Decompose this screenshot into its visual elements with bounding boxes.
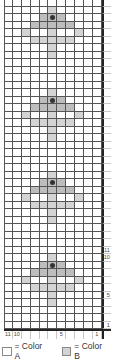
chart-row (4, 224, 111, 232)
chart-cell (4, 239, 13, 247)
chart-cell (93, 292, 102, 300)
row-number (102, 14, 111, 22)
chart-cell (40, 82, 49, 90)
chart-cell (4, 322, 13, 330)
chart-cell (84, 172, 93, 180)
chart-cell (66, 127, 75, 135)
legend-item-color-a: = Color A (2, 341, 48, 361)
chart-cell (75, 104, 84, 112)
chart-cell (84, 254, 93, 262)
chart-cell (13, 239, 22, 247)
chart-cell (93, 299, 102, 307)
chart-cell (13, 97, 22, 105)
chart-row (4, 284, 111, 292)
row-number (102, 164, 111, 172)
chart-cell (93, 97, 102, 105)
chart-cell (66, 67, 75, 75)
chart-cell (22, 74, 31, 82)
chart-cell (4, 149, 13, 157)
chart-cell (40, 179, 49, 187)
chart-cell (57, 142, 66, 150)
row-number (102, 194, 111, 202)
chart-cell (93, 217, 102, 225)
chart-cell (57, 277, 66, 285)
chart-cell (48, 37, 57, 45)
color-b-swatch (62, 347, 72, 356)
chart-cell (57, 269, 66, 277)
chart-cell (75, 247, 84, 255)
chart-cell (31, 232, 40, 240)
chart-cell (48, 292, 57, 300)
chart-cell (57, 22, 66, 30)
chart-cell (22, 82, 31, 90)
chart-cell (4, 142, 13, 150)
chart-cell (48, 314, 57, 322)
chart-cell (75, 254, 84, 262)
chart-cell (48, 22, 57, 30)
chart-cell (13, 322, 22, 330)
chart-cell (13, 14, 22, 22)
chart-row (4, 127, 111, 135)
chart-cell (31, 112, 40, 120)
chart-cell (40, 269, 49, 277)
chart-cell (57, 14, 66, 22)
chart-cell (4, 307, 13, 315)
column-number: 5 (57, 331, 66, 339)
chart-cell (66, 7, 75, 15)
chart-row (4, 209, 111, 217)
chart-cell (4, 74, 13, 82)
row-number (102, 7, 111, 15)
chart-cell (31, 29, 40, 37)
row-number (102, 172, 111, 180)
chart-cell (75, 127, 84, 135)
label-column-spacer (102, 331, 111, 339)
chart-cell (75, 59, 84, 67)
chart-row (4, 164, 111, 172)
chart-cell (40, 262, 49, 270)
chart-cell (13, 269, 22, 277)
chart-row (4, 14, 111, 22)
chart-cell (75, 44, 84, 52)
chart-cell (75, 119, 84, 127)
chart-cell (48, 112, 57, 120)
chart-cell (57, 307, 66, 315)
chart-cell (84, 157, 93, 165)
chart-cell (57, 187, 66, 195)
column-number (84, 331, 93, 339)
chart-cell (57, 314, 66, 322)
chart-cell (22, 232, 31, 240)
chart-row (4, 314, 111, 322)
chart-cell (57, 322, 66, 330)
chart-cell (31, 157, 40, 165)
chart-cell (31, 217, 40, 225)
chart-cell (93, 7, 102, 15)
chart-cell (4, 44, 13, 52)
chart-cell (48, 269, 57, 277)
chart-cell (66, 239, 75, 247)
chart-cell (40, 104, 49, 112)
chart-cell (22, 254, 31, 262)
chart-cell (13, 112, 22, 120)
chart-cell (66, 217, 75, 225)
chart-row (4, 29, 111, 37)
chart-cell (75, 149, 84, 157)
chart-cell (31, 14, 40, 22)
chart-cell (13, 277, 22, 285)
chart-cell (31, 104, 40, 112)
row-number (102, 37, 111, 45)
legend-item-color-b: = Color B (62, 341, 108, 361)
chart-cell (48, 307, 57, 315)
chart-cell (84, 247, 93, 255)
chart-cell (22, 59, 31, 67)
chart-cell (75, 194, 84, 202)
chart-cell (48, 164, 57, 172)
chart-cell (40, 142, 49, 150)
row-number (102, 104, 111, 112)
chart-cell (4, 187, 13, 195)
chart-cell (31, 187, 40, 195)
chart-cell (48, 254, 57, 262)
row-number (102, 202, 111, 210)
chart-cell (4, 59, 13, 67)
chart-cell (93, 254, 102, 262)
chart-cell (31, 37, 40, 45)
